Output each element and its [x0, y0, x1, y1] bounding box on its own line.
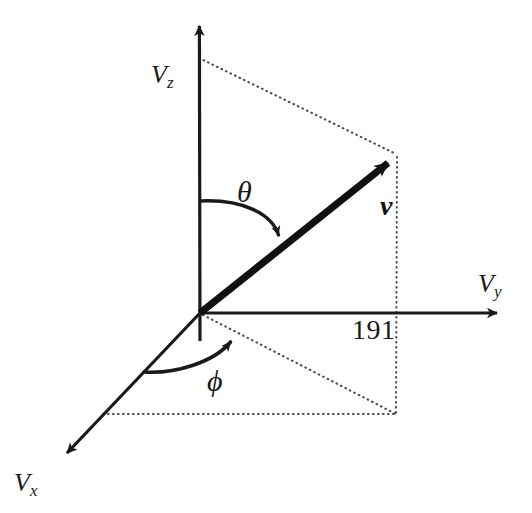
vy-axis-label: Vy	[478, 271, 501, 300]
vz-axis-label: Vz	[151, 62, 174, 91]
vz-axis	[199, 26, 200, 341]
vx-axis-label-subscript: x	[30, 481, 38, 500]
theta-angle-label: θ	[237, 177, 252, 207]
axes-group	[67, 26, 497, 453]
vy-axis-label-subscript: y	[494, 282, 502, 301]
dotted-line-tip-to-plane	[396, 157, 397, 414]
diagram-canvas	[0, 0, 532, 513]
vector-diagram-figure: Vz Vy Vx θ ϕ v 191	[0, 0, 532, 513]
phi-angle-label: ϕ	[207, 366, 223, 396]
vx-axis-label-base: V	[14, 468, 30, 497]
construction-lines	[103, 58, 397, 414]
dotted-line-z-to-tip	[199, 58, 396, 154]
vector-v-line	[200, 163, 388, 313]
vx-axis	[67, 313, 200, 453]
vz-axis-label-subscript: z	[167, 73, 174, 92]
vector-v-label: v	[380, 192, 392, 220]
vector-v	[200, 163, 388, 313]
projection-measurement-label: 191	[352, 316, 396, 344]
vy-axis-label-base: V	[478, 269, 494, 298]
vz-axis-label-base: V	[151, 60, 167, 89]
vx-axis-label: Vx	[14, 470, 37, 499]
